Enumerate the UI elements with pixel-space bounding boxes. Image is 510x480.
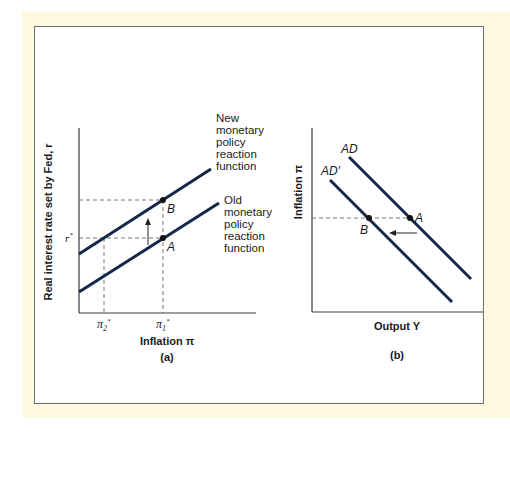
point-b-label: B <box>167 202 175 216</box>
panel-b: A B AD AD′ Output Y (b) Inflation π <box>292 128 483 361</box>
point-a-marker <box>160 235 166 241</box>
pi2-star-tick: π2* <box>97 317 111 333</box>
point-a-marker-b <box>407 215 413 221</box>
ad-prime-curve-label: AD′ <box>320 164 341 178</box>
panel-a: B A r* π2* π1* Inflation π (a) Real inte… <box>42 112 272 363</box>
panel-a-caption: (a) <box>160 351 174 363</box>
point-b-label-b: B <box>360 223 368 237</box>
r-star-tick: r* <box>65 231 73 244</box>
svg-text:Old: Old <box>224 194 242 206</box>
point-b-marker <box>160 197 166 203</box>
svg-text:function: function <box>224 242 264 254</box>
svg-text:monetary: monetary <box>216 124 264 136</box>
new-reaction-function-line <box>79 169 211 254</box>
point-b-marker-b <box>366 215 372 221</box>
svg-text:policy: policy <box>216 136 246 148</box>
panel-b-caption: (b) <box>390 349 404 361</box>
svg-text:function: function <box>216 160 256 172</box>
figure-svg: B A r* π2* π1* Inflation π (a) Real inte… <box>0 0 510 480</box>
svg-text:reaction: reaction <box>224 230 265 242</box>
point-a-label: A <box>166 240 175 254</box>
svg-text:New: New <box>216 112 240 124</box>
panel-a-y-axis-label: Real interest rate set by Fed, r <box>42 143 54 301</box>
panel-b-x-axis-label: Output Y <box>374 320 421 332</box>
old-reaction-function-line <box>79 203 219 292</box>
ad-curve-label: AD <box>340 142 358 156</box>
pi1-star-tick: π1* <box>156 317 170 333</box>
new-reaction-function-label: New monetary policy reaction function <box>216 112 264 172</box>
panel-a-x-axis-label: Inflation π <box>140 335 195 347</box>
point-a-label-b: A <box>414 211 423 225</box>
svg-text:policy: policy <box>224 218 254 230</box>
panel-b-y-axis-label: Inflation π <box>292 164 304 219</box>
svg-text:reaction: reaction <box>216 148 257 160</box>
svg-text:monetary: monetary <box>224 206 272 218</box>
old-reaction-function-label: Old monetary policy reaction function <box>224 194 272 254</box>
